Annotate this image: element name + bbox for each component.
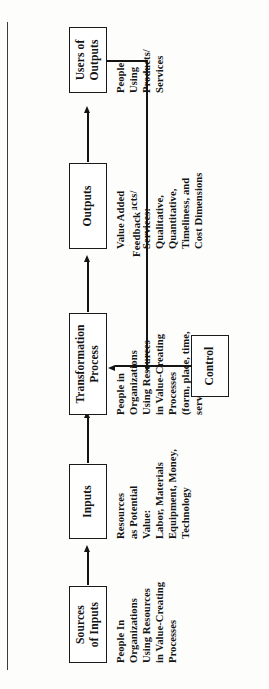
- node-users-of-outputs-title: Users of Outputs: [74, 40, 101, 81]
- feedback-segment-horizontal: [146, 60, 148, 365]
- edge-outputs-to-users-arrowhead: [84, 106, 90, 113]
- node-users-of-outputs: Users of Outputs: [69, 27, 107, 93]
- feedback-segment-vertical-from-users: [106, 60, 147, 62]
- node-outputs-title: Outputs: [81, 186, 95, 227]
- edge-inputs-to-transformation: [87, 417, 89, 463]
- feedback-label: Feedback: [130, 210, 142, 259]
- feedback-arrowhead-into-control: [144, 365, 150, 372]
- node-control: Control: [191, 335, 229, 397]
- node-inputs-title: Inputs: [81, 485, 95, 518]
- node-control-title: Control: [203, 347, 217, 386]
- node-sources-of-inputs-title: Sources of Inputs: [74, 602, 101, 647]
- node-inputs-description: Resources as Potential Value: Labor, Mat…: [115, 414, 193, 539]
- node-transformation-process: Transformation Process: [69, 313, 107, 415]
- systems-process-flow-diagram: Sources of Inputs People In Organization…: [0, 0, 269, 689]
- node-users-of-outputs-description: People Using Products/ Services: [115, 0, 167, 93]
- node-transformation-process-title: Transformation Process: [74, 324, 101, 403]
- edge-sources-to-inputs-arrowhead: [84, 545, 90, 552]
- node-sources-of-inputs-description: People In Organizations Using Resources …: [115, 553, 180, 663]
- node-inputs: Inputs: [69, 464, 107, 539]
- edge-outputs-to-users: [87, 112, 89, 162]
- node-sources-of-inputs: Sources of Inputs: [69, 586, 107, 663]
- edge-transformation-to-outputs-arrowhead: [84, 255, 90, 262]
- node-outputs: Outputs: [69, 163, 107, 249]
- edge-sources-to-inputs: [87, 551, 89, 585]
- edge-control-to-transformation: [115, 365, 192, 367]
- edge-control-to-transformation-arrowhead: [108, 365, 115, 371]
- edge-transformation-to-outputs: [87, 261, 89, 312]
- node-outputs-description: Value Added As Products/ Services: Quali…: [115, 109, 205, 249]
